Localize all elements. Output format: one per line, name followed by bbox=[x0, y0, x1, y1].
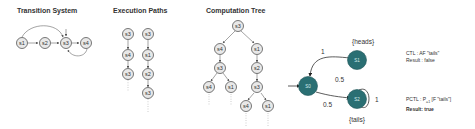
diagram-canvas: s1 s2 s3 s4 s3 s4 s3 s3 s1 s2 s3 bbox=[0, 0, 475, 129]
ts-node-s1: s1 bbox=[17, 38, 28, 49]
ts-node-s3: s3 bbox=[61, 38, 72, 49]
path2-node-3: s3 bbox=[143, 88, 154, 99]
ts-node-s2: s2 bbox=[40, 38, 51, 49]
markov-chain-graph: 1 0.5 0.5 1 {heads} {tails} S0 S1 S2 bbox=[288, 38, 379, 124]
prob-label-s0-s1: 0.5 bbox=[335, 76, 344, 83]
label-heads: {heads} bbox=[352, 38, 375, 46]
tree-node-l4-0: s4 bbox=[241, 101, 252, 112]
ctl-result: Result : false bbox=[406, 57, 439, 64]
tree-node-l2-1: s2 bbox=[252, 63, 263, 74]
svg-text:s2: s2 bbox=[42, 40, 48, 46]
path2-node-0: s3 bbox=[143, 29, 154, 40]
svg-text:s2: s2 bbox=[145, 71, 151, 77]
computation-tree-graph: s3 s4 s1 s3 s2 s4 s1 s3 s4 s1 bbox=[204, 21, 274, 127]
execution-path-1: s3 s4 s3 bbox=[123, 29, 134, 93]
svg-text:S2: S2 bbox=[354, 97, 360, 102]
prob-label-s0-s2: 0.5 bbox=[323, 101, 332, 108]
svg-text:s3: s3 bbox=[63, 40, 69, 46]
tree-node-root: s3 bbox=[233, 21, 244, 32]
svg-text:s1: s1 bbox=[19, 40, 25, 46]
label-tails: {tails} bbox=[349, 116, 366, 124]
state-s0: S0 bbox=[299, 77, 318, 96]
svg-text:s4: s4 bbox=[83, 40, 89, 46]
tree-node-l4-1: s1 bbox=[263, 101, 274, 112]
svg-text:s1: s1 bbox=[145, 52, 151, 58]
tree-node-l2-0: s3 bbox=[215, 63, 226, 74]
svg-text:s2: s2 bbox=[254, 65, 260, 71]
prob-label-s2-s2: 1 bbox=[375, 96, 379, 103]
path1-node-1: s4 bbox=[123, 50, 134, 61]
tree-node-l1-1: s1 bbox=[252, 44, 263, 55]
svg-text:s3: s3 bbox=[145, 31, 151, 37]
state-s1: S1 bbox=[348, 51, 367, 70]
pctl-result-block: PCTL : P=1 [F "tails"] Result: true bbox=[406, 96, 451, 113]
svg-text:s3: s3 bbox=[125, 71, 131, 77]
path1-node-2: s3 bbox=[123, 69, 134, 80]
svg-text:s1: s1 bbox=[254, 46, 260, 52]
ts-node-s4: s4 bbox=[81, 38, 92, 49]
ctl-result-block: CTL : AF "tails" Result : false bbox=[406, 50, 439, 64]
svg-text:s3: s3 bbox=[235, 23, 241, 29]
svg-text:s4: s4 bbox=[206, 84, 212, 90]
path2-node-1: s1 bbox=[143, 50, 154, 61]
path1-node-0: s3 bbox=[123, 29, 134, 40]
tree-node-l3-2: s3 bbox=[252, 82, 263, 93]
svg-text:s4: s4 bbox=[125, 52, 131, 58]
svg-text:s4: s4 bbox=[243, 103, 249, 109]
svg-text:S1: S1 bbox=[354, 58, 360, 63]
transition-system-graph: s1 s2 s3 s4 bbox=[17, 26, 92, 56]
tree-node-l3-1: s1 bbox=[226, 82, 237, 93]
tree-node-l3-0: s4 bbox=[204, 82, 215, 93]
prob-label-s1-s0: 1 bbox=[321, 48, 325, 55]
svg-text:s1: s1 bbox=[265, 103, 271, 109]
pctl-formula: PCTL : P=1 [F "tails"] bbox=[406, 96, 451, 106]
svg-text:s3: s3 bbox=[217, 65, 223, 71]
execution-path-2: s3 s1 s2 s3 bbox=[143, 29, 154, 113]
svg-text:s1: s1 bbox=[228, 84, 234, 90]
svg-text:s3: s3 bbox=[145, 90, 151, 96]
svg-text:s3: s3 bbox=[125, 31, 131, 37]
svg-text:s3: s3 bbox=[254, 84, 260, 90]
tree-node-l1-0: s4 bbox=[215, 44, 226, 55]
state-s2: S2 bbox=[348, 90, 367, 109]
svg-text:S0: S0 bbox=[305, 84, 311, 89]
pctl-result: Result: true bbox=[406, 106, 451, 113]
svg-text:s4: s4 bbox=[217, 46, 223, 52]
ctl-formula: CTL : AF "tails" bbox=[406, 50, 439, 57]
path2-node-2: s2 bbox=[143, 69, 154, 80]
